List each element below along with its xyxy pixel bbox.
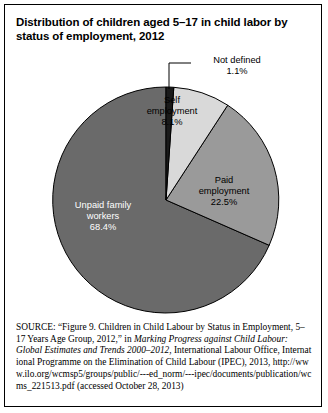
pie-chart: Not defined 1.1% Self employment 8.1% Pa… bbox=[5, 49, 323, 317]
pie-label-not-defined: Not defined 1.1% bbox=[191, 55, 283, 77]
pie-label-not-defined-value: 1.1% bbox=[191, 66, 283, 77]
page-title: Distribution of children aged 5–17 in ch… bbox=[16, 15, 308, 43]
pie-label-paid-employment-value: 22.5% bbox=[186, 197, 262, 208]
pie-label-unpaid-family-workers: Unpaid family workers 68.4% bbox=[57, 200, 149, 233]
pie-label-paid-employment-name2: employment bbox=[186, 186, 262, 197]
pie-label-unpaid-family-workers-value: 68.4% bbox=[57, 222, 149, 233]
pie-label-paid-employment: Paid employment 22.5% bbox=[186, 175, 262, 208]
source-label: SOURCE: bbox=[16, 322, 56, 332]
figure-frame: Distribution of children aged 5–17 in ch… bbox=[4, 4, 322, 407]
source-note: SOURCE: “Figure 9. Children in Child Lab… bbox=[16, 322, 312, 392]
pie-label-paid-employment-name1: Paid bbox=[186, 175, 262, 186]
pie-label-unpaid-family-workers-name2: workers bbox=[57, 211, 149, 222]
pie-label-unpaid-family-workers-name1: Unpaid family bbox=[57, 200, 149, 211]
leader-line-not-defined bbox=[169, 63, 191, 89]
pie-label-not-defined-name: Not defined bbox=[191, 55, 283, 66]
pie-label-self-employment-value: 8.1% bbox=[136, 117, 208, 128]
pie-label-self-employment: Self employment 8.1% bbox=[136, 95, 208, 128]
pie-label-self-employment-name1: Self bbox=[136, 95, 208, 106]
pie-chart-svg bbox=[5, 49, 323, 317]
pie-label-self-employment-name2: employment bbox=[136, 106, 208, 117]
